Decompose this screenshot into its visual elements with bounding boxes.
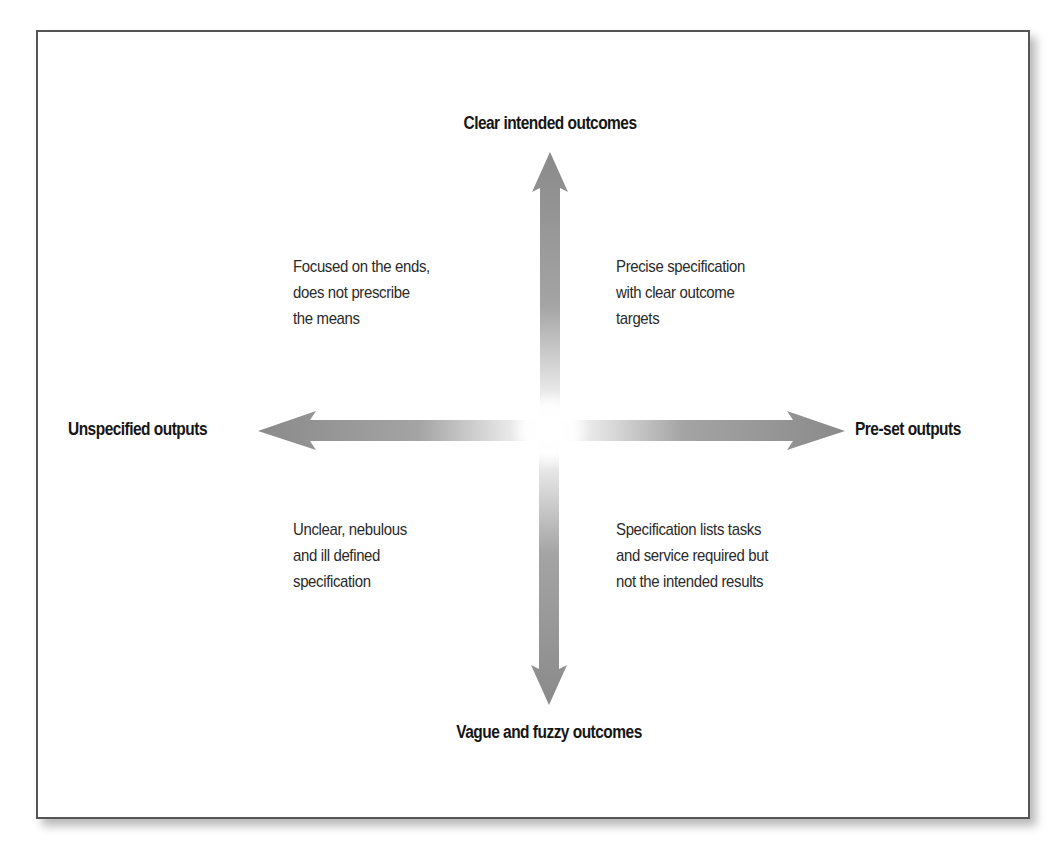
quadrant-text-line: Precise specification: [616, 254, 745, 280]
quadrant-text-line: Focused on the ends,: [293, 254, 430, 280]
quadrant-text-line: does not prescribe: [293, 280, 430, 306]
quadrant-bottom-left: Unclear, nebulous and ill defined specif…: [293, 517, 407, 595]
quadrant-text-line: Specification lists tasks: [616, 517, 768, 543]
quadrant-text-line: and ill defined: [293, 543, 407, 569]
arrow-down-icon: [531, 430, 567, 705]
center-glow: [510, 390, 590, 470]
quadrant-text-line: targets: [616, 306, 745, 332]
quadrant-text-line: specification: [293, 569, 407, 595]
quadrant-text-line: not the intended results: [616, 569, 768, 595]
arrow-right-icon: [550, 411, 845, 450]
arrow-up-icon: [532, 152, 568, 430]
quadrant-text-line: with clear outcome: [616, 280, 745, 306]
quadrant-top-right: Precise specification with clear outcome…: [616, 254, 745, 332]
quadrant-text-line: the means: [293, 306, 430, 332]
arrow-left-icon: [258, 411, 550, 450]
axis-label-left: Unspecified outputs: [68, 419, 207, 440]
axis-label-right: Pre-set outputs: [855, 419, 961, 440]
axis-label-bottom: Vague and fuzzy outcomes: [456, 722, 641, 743]
axis-label-top: Clear intended outcomes: [463, 113, 636, 134]
quadrant-text-line: Unclear, nebulous: [293, 517, 407, 543]
quadrant-bottom-right: Specification lists tasks and service re…: [616, 517, 768, 595]
quadrant-text-line: and service required but: [616, 543, 768, 569]
quadrant-top-left: Focused on the ends, does not prescribe …: [293, 254, 430, 332]
